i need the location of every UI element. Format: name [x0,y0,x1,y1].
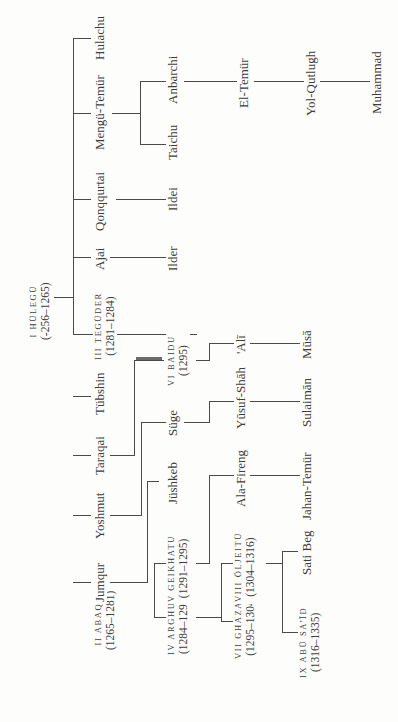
connector-tubshin [73,396,91,397]
connector-anbarchi [140,81,166,82]
connector-baidu-out [196,360,210,361]
connector-qonqqurtai [73,199,91,200]
connector-taraqai-elbow [134,360,135,456]
connector-el-temur-out [254,81,304,82]
node-abu-said: IX ABŪ SA'ĪD (1316–1335) [298,605,322,680]
connector-baidu-elbow [209,343,210,361]
connector-sati-beg [282,551,298,552]
node-jushkeb: Jüshkeb [166,460,180,506]
connector-suge-elbow [209,401,210,423]
connector-mengu-temur-out [112,113,140,114]
node-ali: 'Alī [234,333,248,356]
connector-geikhatu [154,563,166,564]
node-oljeitu-dates: (1304–1316) [244,532,257,602]
node-musa: Mūsā [300,328,314,361]
node-anbarchi: Anbarchi [166,54,180,106]
node-jahan-temur: Jahan-Temür [300,450,314,522]
node-baidu: VI BAIDU (1295) [166,333,190,388]
print-smear [136,357,162,360]
connector-mengu-temur-bracket [140,81,141,145]
connector-hulachu [73,38,91,39]
connector-geikhatu-elbow [209,475,210,564]
node-ildei: Ildei [166,185,180,213]
node-abu-said-dates: (1316–1335) [309,607,322,678]
connector-ala-fireng-out [250,475,300,476]
connector-ajai [73,257,91,258]
node-muhammad: Muhammad [370,49,384,116]
node-ajai: Ajai [93,246,107,272]
node-geikhatu: V GEIKHATU (1291–1295) [166,533,190,604]
connector-ghazan [221,621,233,622]
connector-yoshmut-out [110,515,141,516]
connector-ali-out [250,343,300,344]
connector-arghun [154,617,166,618]
connector-yusuf-shah [209,401,234,402]
connector-trunk [73,38,74,335]
node-jumqur: Jumqur [93,561,107,604]
connector-suge [141,422,166,423]
node-baidu-dates: (1295) [177,335,190,386]
node-mengu-temur: Mengü-Temür [93,73,107,152]
connector-abu-said [282,632,298,633]
node-oljeitu-name: VIII ÖLJEITÜ [233,532,244,602]
connector-qonqqurtai-out [116,199,166,200]
connector-taraqai [73,455,91,456]
node-oljeitu: VIII ÖLJEITÜ (1304–1316) [233,530,257,604]
node-hulegu-name: I HÜLEGÜ [28,283,39,341]
connector-taichu [140,144,166,145]
node-yoshmut: Yoshmut [93,491,107,541]
node-teguder-dates: (1281–1284) [104,292,117,360]
connector-ala-fireng [209,475,234,476]
node-teguder-name: III TEGÜDER [93,292,104,360]
genealogy-tree: I HÜLEGÜ (-256–1265) II ABAQA (1265–1281… [0,0,398,722]
connector-yoshmut-elbow [141,422,142,516]
connector-suge-out [184,422,210,423]
connector-oljeitu [221,563,233,564]
connector-jumqur-out [110,582,148,583]
node-ala-fireng: Ala-Fireng [234,448,248,509]
connector-arghun-out [196,617,222,618]
connector-jumqur [73,582,91,583]
connector-taraqai-out [110,455,134,456]
node-sati-beg: Sati Beg [300,529,314,577]
node-taraqai: Taraqai [93,434,107,477]
node-sulaiman: Sulaimān [300,376,314,429]
connector-abaqa-bracket [154,563,155,618]
node-hulegu: I HÜLEGÜ (-256–1265) [28,281,52,343]
node-geikhatu-dates: (1291–1295) [177,535,190,602]
connector-arghun-bracket [221,563,222,622]
connector-ajai-out [110,257,166,258]
connector-yoshmut [73,515,91,516]
node-yol-qutlugh: Yol-Qutlugh [304,49,318,118]
node-teguder: III TEGÜDER (1281–1284) [93,290,117,362]
connector-anbarchi-out [184,81,240,82]
node-yusuf-shah: Yūsuf-Shāh [234,365,248,431]
node-baidu-name: VI BAIDU [166,335,177,386]
node-suge: Süge [166,408,180,438]
connector-mengu-temur [73,113,91,114]
node-taichu: Taichu [166,123,180,162]
connector-baidu [134,360,164,361]
node-geikhatu-name: V GEIKHATU [166,535,177,602]
node-hulegu-dates: (-256–1265) [39,283,52,341]
node-qonqqurtai: Qonqqurtai [93,170,107,233]
connector-oljeitu-bracket [282,551,283,633]
connector-jushkeb [147,481,159,482]
node-ilder: Ilder [166,244,180,273]
node-abu-said-name: IX ABŪ SA'ĪD [298,607,309,678]
node-el-temur: El-Temür [237,56,251,110]
connector-yusuf-shah-out [250,401,300,402]
connector-root [54,297,74,298]
connector-oljeitu-out [266,563,282,564]
connector-geikhatu-out [196,563,210,564]
connector-jumqur-elbow [147,481,148,583]
node-tubshin: Tübshin [93,370,107,417]
connector-yol-qutlugh-out [320,81,370,82]
connector-ali [209,343,234,344]
node-hulachu: Hulachu [93,14,107,62]
